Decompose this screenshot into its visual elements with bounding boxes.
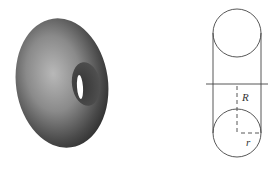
top-circle [213,9,261,57]
cross-section-diagram [206,9,268,157]
torus-3d [7,12,116,154]
major-radius-label: R [241,91,249,103]
torus-figure: R r [0,0,279,179]
minor-radius-label: r [246,136,251,148]
